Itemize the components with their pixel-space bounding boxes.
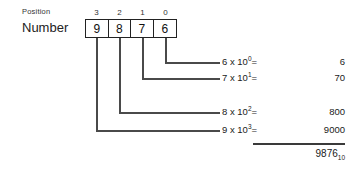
digit-cell-3: 9 xyxy=(86,20,109,37)
connector-vline-tens xyxy=(142,38,144,80)
equation-row-thousands: 9 x 103= 9000 xyxy=(222,124,355,138)
connector-vline-units xyxy=(165,38,167,64)
equation-expression-thousands: 9 x 103= xyxy=(222,124,257,135)
digit-box: 9 8 7 6 xyxy=(85,19,177,38)
digit-cell-2: 8 xyxy=(109,20,132,37)
digit-cell-0: 6 xyxy=(154,20,176,37)
connector-hline-hundreds xyxy=(119,112,220,114)
place-value-diagram: Position Number 3 2 1 0 9 8 7 6 6 x 100=… xyxy=(0,0,355,170)
position-index-3: 3 xyxy=(85,8,108,17)
equation-value-thousands: 9000 xyxy=(324,124,345,135)
equation-expression-hundreds: 8 x 102= xyxy=(222,106,257,117)
equation-row-hundreds: 8 x 102= 800 xyxy=(222,106,355,120)
connector-hline-tens xyxy=(142,78,220,80)
position-index-2: 2 xyxy=(108,8,131,17)
position-index-1: 1 xyxy=(131,8,154,17)
equation-value-units: 6 xyxy=(340,56,345,67)
sum-rule xyxy=(253,143,345,145)
equation-value-hundreds: 800 xyxy=(329,106,345,117)
position-index-0: 0 xyxy=(154,8,177,17)
connector-vline-thousands xyxy=(96,38,98,132)
equation-value-tens: 70 xyxy=(334,72,345,83)
total-value: 987610 xyxy=(316,148,345,159)
equation-expression-units: 6 x 100= xyxy=(222,56,257,67)
connector-hline-thousands xyxy=(96,130,220,132)
connector-hline-units xyxy=(165,62,220,64)
equation-row-units: 6 x 100= 6 xyxy=(222,56,355,70)
equation-expression-tens: 7 x 101= xyxy=(222,72,257,83)
number-label: Number xyxy=(22,20,68,35)
digit-cell-1: 7 xyxy=(131,20,154,37)
equation-row-tens: 7 x 101= 70 xyxy=(222,72,355,86)
connector-vline-hundreds xyxy=(119,38,121,114)
position-label: Position xyxy=(22,7,50,16)
